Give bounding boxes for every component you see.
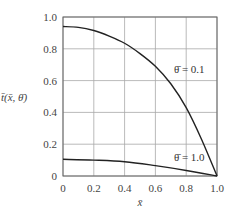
- chart-plot: 00.20.40.60.81.000.20.40.60.81.0θ̄ = 0.1…: [0, 0, 239, 215]
- series-annotation: θ̄ = 0.1: [174, 63, 205, 75]
- x-tick-label: 0.8: [179, 182, 193, 194]
- y-tick-label: 0.2: [43, 138, 57, 150]
- x-tick-label: 1.0: [210, 182, 224, 194]
- x-tick-label: 0.4: [118, 182, 132, 194]
- y-tick-label: 0.4: [43, 106, 57, 118]
- y-tick-label: 1.0: [43, 11, 57, 23]
- y-tick-label: 0: [52, 170, 58, 182]
- x-tick-label: 0.2: [87, 182, 101, 194]
- y-tick-label: 0.8: [43, 43, 57, 55]
- y-axis-label: t̄(x̄, θ̄): [1, 91, 28, 104]
- x-axis-label: x̄: [137, 196, 143, 208]
- y-tick-label: 0.6: [43, 75, 57, 87]
- x-tick-label: 0: [60, 182, 66, 194]
- series-annotation: θ̄ = 1.0: [174, 151, 205, 163]
- x-tick-label: 0.6: [149, 182, 163, 194]
